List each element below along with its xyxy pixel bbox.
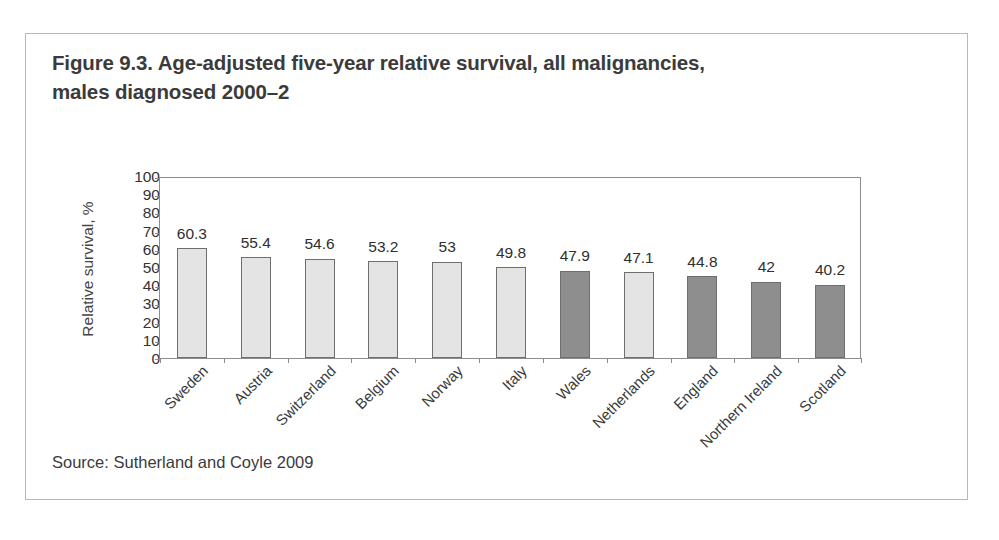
y-tick-label-40: 40 <box>143 278 160 294</box>
x-label-wales: Wales <box>553 362 594 403</box>
y-tick-label-80: 80 <box>143 206 160 222</box>
y-tick-mark <box>155 214 160 215</box>
y-axis-title: Relative survival, % <box>79 179 97 359</box>
bar-value-label: 44.8 <box>672 254 732 270</box>
y-tick-mark <box>155 269 160 270</box>
bar-switzerland[interactable] <box>305 259 335 358</box>
bar-value-label: 42 <box>736 259 796 275</box>
bar-value-label: 49.8 <box>481 245 541 261</box>
figure-frame: Figure 9.3. Age-adjusted five-year relat… <box>25 33 968 500</box>
bar-value-label: 53 <box>417 239 477 255</box>
plot-area: 60.355.454.653.25349.847.947.144.84240.2 <box>159 177 861 359</box>
bar-value-label: 53.2 <box>353 239 413 255</box>
bar-netherlands[interactable] <box>624 272 654 358</box>
bar-value-label: 47.9 <box>545 248 605 264</box>
y-tick-label-60: 60 <box>143 242 160 258</box>
y-tick-mark <box>155 305 160 306</box>
x-label-austria: Austria <box>230 362 275 407</box>
bar-chart: Relative survival, % 1009080706050403020… <box>26 142 969 442</box>
x-label-norway: Norway <box>418 362 466 410</box>
y-tick-label-70: 70 <box>143 224 160 240</box>
bar-northern-ireland[interactable] <box>751 282 781 358</box>
y-tick-label-100: 100 <box>134 169 160 185</box>
y-tick-mark <box>155 324 160 325</box>
bar-scotland[interactable] <box>815 285 845 358</box>
x-label-scotland: Scotland <box>796 362 849 415</box>
x-label-italy: Italy <box>499 362 530 393</box>
bar-value-label: 40.2 <box>800 262 860 278</box>
bar-wales[interactable] <box>560 271 590 358</box>
bar-value-label: 54.6 <box>290 236 350 252</box>
x-label-england: England <box>671 362 722 413</box>
y-tick-mark <box>155 251 160 252</box>
y-tick-label-10: 10 <box>143 333 160 349</box>
bar-england[interactable] <box>687 276 717 358</box>
source-note: Source: Sutherland and Coyle 2009 <box>52 453 313 472</box>
y-tick-label-30: 30 <box>143 297 160 313</box>
y-tick-mark <box>155 287 160 288</box>
bars-layer: 60.355.454.653.25349.847.947.144.84240.2 <box>160 178 860 358</box>
x-label-netherlands: Netherlands <box>588 362 657 431</box>
y-tick-label-20: 20 <box>143 315 160 331</box>
y-tick-mark <box>155 178 160 179</box>
bar-belgium[interactable] <box>368 261 398 358</box>
x-tick-mark <box>861 358 862 363</box>
y-tick-mark <box>155 233 160 234</box>
x-label-belgium: Belgium <box>352 362 402 412</box>
y-tick-mark <box>155 196 160 197</box>
bar-austria[interactable] <box>241 257 271 358</box>
y-axis-tick-labels: 1009080706050403020100 <box>112 177 160 359</box>
x-label-switzerland: Switzerland <box>272 362 339 429</box>
bar-value-label: 60.3 <box>162 226 222 242</box>
y-tick-mark <box>155 342 160 343</box>
bar-norway[interactable] <box>432 262 462 358</box>
bar-italy[interactable] <box>496 267 526 358</box>
bar-sweden[interactable] <box>177 248 207 358</box>
bar-value-label: 55.4 <box>226 235 286 251</box>
y-tick-label-50: 50 <box>143 260 160 276</box>
x-label-sweden: Sweden <box>161 362 211 412</box>
figure-title: Figure 9.3. Age-adjusted five-year relat… <box>52 48 752 106</box>
y-tick-label-90: 90 <box>143 187 160 203</box>
bar-value-label: 47.1 <box>609 250 669 266</box>
